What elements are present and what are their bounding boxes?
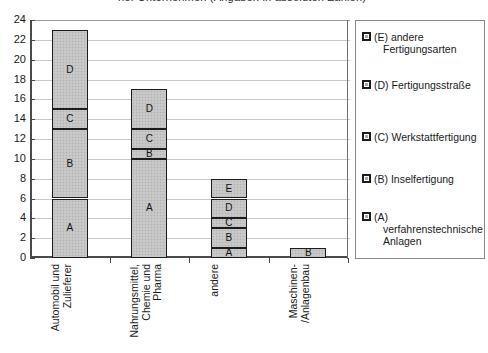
chart-title-partial: ner Unternehmen (Angaben in absoluten Za… bbox=[118, 0, 366, 3]
legend-item-label: (D) Fertigungsstraße bbox=[374, 79, 471, 91]
category-label-line: Zulieferer bbox=[61, 264, 73, 350]
bar-segment-b[interactable]: B bbox=[290, 248, 326, 258]
y-axis-tick-label: 14 bbox=[2, 112, 26, 124]
bar-segment-c[interactable]: C bbox=[211, 218, 247, 228]
bar-segment-a[interactable]: A bbox=[52, 199, 88, 259]
legend-item-label: (C) Werkstattfertigung bbox=[374, 131, 477, 143]
y-axis-tick-mark bbox=[30, 60, 35, 61]
legend-label-line: Anlagen bbox=[374, 235, 483, 247]
bar-segment-label: D bbox=[66, 65, 73, 75]
cropped-title-strip: ner Unternehmen (Angaben in absoluten Za… bbox=[0, 0, 488, 7]
legend-swatch-icon bbox=[362, 80, 371, 89]
bar-segment-label: D bbox=[225, 203, 232, 213]
legend-label-line: (A) bbox=[374, 211, 483, 223]
bar-segment-b[interactable]: B bbox=[131, 149, 167, 159]
x-axis-category-label: Automobil undZulieferer bbox=[50, 264, 73, 350]
y-axis-tick-mark bbox=[30, 119, 35, 120]
y-axis-tick-label: 6 bbox=[2, 192, 26, 204]
bar-segment-label: C bbox=[66, 114, 73, 124]
bar-segment-label: B bbox=[225, 233, 232, 243]
category-label-line: Pharma bbox=[152, 264, 164, 350]
x-axis-category-label: Maschinen-/Anlagenbau bbox=[288, 264, 311, 350]
bar-segment-label: A bbox=[66, 223, 73, 233]
y-axis-tick-mark bbox=[30, 238, 35, 239]
legend-item-a[interactable]: (A)verfahrenstechnischeAnlagen bbox=[362, 211, 484, 247]
x-axis-tick-mark bbox=[189, 258, 190, 263]
y-axis-tick-mark bbox=[30, 20, 35, 21]
y-axis-tick-label: 20 bbox=[2, 53, 26, 65]
y-axis-tick-mark bbox=[30, 99, 35, 100]
y-axis-tick-label: 2 bbox=[2, 231, 26, 243]
bar-segment-b[interactable]: B bbox=[52, 129, 88, 198]
stacked-bar[interactable]: B bbox=[290, 20, 326, 258]
bar-segment-b[interactable]: B bbox=[211, 228, 247, 248]
bar-segment-d[interactable]: D bbox=[52, 30, 88, 109]
y-axis-tick-mark bbox=[30, 179, 35, 180]
y-axis-tick-mark bbox=[30, 139, 35, 140]
y-axis-tick-labels: 242220181614121086420 bbox=[0, 20, 26, 258]
bar-segment-c[interactable]: C bbox=[131, 129, 167, 149]
legend-item-c[interactable]: (C) Werkstattfertigung bbox=[362, 131, 484, 143]
category-label-line: Automobil und bbox=[50, 264, 62, 350]
stacked-bar[interactable]: ABCD bbox=[52, 20, 88, 258]
y-axis-tick-label: 8 bbox=[2, 172, 26, 184]
bar-segment-label: C bbox=[146, 134, 153, 144]
y-axis-tick-label: 12 bbox=[2, 132, 26, 144]
legend-item-label: (A)verfahrenstechnischeAnlagen bbox=[374, 211, 483, 247]
bar-segment-label: D bbox=[146, 104, 153, 114]
chart-legend: (E) andereFertigungsarten(D) Fertigungss… bbox=[355, 20, 485, 259]
y-axis-tick-mark bbox=[30, 80, 35, 81]
legend-label-line: (E) andere bbox=[374, 31, 457, 43]
y-axis-tick-label: 16 bbox=[2, 92, 26, 104]
legend-item-label: (B) Inselfertigung bbox=[374, 173, 454, 185]
category-label-line: andere bbox=[209, 264, 221, 350]
bar-segment-label: A bbox=[225, 248, 232, 258]
bar-segment-a[interactable]: A bbox=[131, 159, 167, 258]
y-axis-tick-label: 0 bbox=[2, 251, 26, 263]
y-axis-tick-label: 4 bbox=[2, 211, 26, 223]
legend-label-line: (B) Inselfertigung bbox=[374, 173, 454, 185]
legend-item-b[interactable]: (B) Inselfertigung bbox=[362, 173, 484, 185]
bar-segment-label: B bbox=[66, 159, 73, 169]
x-axis-tick-mark bbox=[269, 258, 270, 263]
y-axis-tick-label: 18 bbox=[2, 73, 26, 85]
y-axis-tick-mark bbox=[30, 159, 35, 160]
bar-segment-a[interactable]: A bbox=[211, 248, 247, 258]
legend-item-label: (E) andereFertigungsarten bbox=[374, 31, 457, 55]
x-axis-tick-mark bbox=[348, 258, 349, 263]
bar-segment-d[interactable]: D bbox=[211, 199, 247, 219]
legend-item-d[interactable]: (D) Fertigungsstraße bbox=[362, 79, 484, 91]
legend-swatch-icon bbox=[362, 132, 371, 141]
y-axis-tick-mark bbox=[30, 40, 35, 41]
legend-label-line: Fertigungsarten bbox=[374, 43, 457, 55]
plot-right-border bbox=[347, 20, 348, 259]
y-axis-tick-label: 22 bbox=[2, 33, 26, 45]
x-axis-category-label: Nahrungsmittel,Chemie undPharma bbox=[129, 264, 164, 350]
y-axis-tick-label: 10 bbox=[2, 152, 26, 164]
stacked-bar[interactable]: ABCD bbox=[131, 20, 167, 258]
stacked-bar[interactable]: ABCDE bbox=[211, 20, 247, 258]
bar-segment-e[interactable]: E bbox=[211, 179, 247, 199]
x-axis-category-label: andere bbox=[209, 264, 221, 350]
bar-segment-label: B bbox=[146, 149, 153, 159]
y-axis-tick-mark bbox=[30, 218, 35, 219]
y-axis-tick-label: 24 bbox=[2, 13, 26, 25]
bar-segment-label: C bbox=[225, 218, 232, 228]
y-axis-tick-mark bbox=[30, 258, 35, 259]
legend-label-line: verfahrenstechnische bbox=[374, 223, 483, 235]
y-axis-tick-mark bbox=[30, 199, 35, 200]
bar-segment-c[interactable]: C bbox=[52, 109, 88, 129]
bar-segment-d[interactable]: D bbox=[131, 89, 167, 129]
bar-segment-label: B bbox=[305, 248, 312, 258]
category-label-line: /Anlagenbau bbox=[300, 264, 312, 350]
legend-swatch-icon bbox=[362, 32, 371, 41]
legend-label-line: (C) Werkstattfertigung bbox=[374, 131, 477, 143]
legend-swatch-icon bbox=[362, 212, 371, 221]
legend-item-e[interactable]: (E) andereFertigungsarten bbox=[362, 31, 484, 55]
x-axis-tick-mark bbox=[110, 258, 111, 263]
bar-segment-label: A bbox=[146, 203, 153, 213]
legend-label-line: (D) Fertigungsstraße bbox=[374, 79, 471, 91]
bar-segment-label: E bbox=[225, 184, 232, 194]
legend-swatch-icon bbox=[362, 174, 371, 183]
